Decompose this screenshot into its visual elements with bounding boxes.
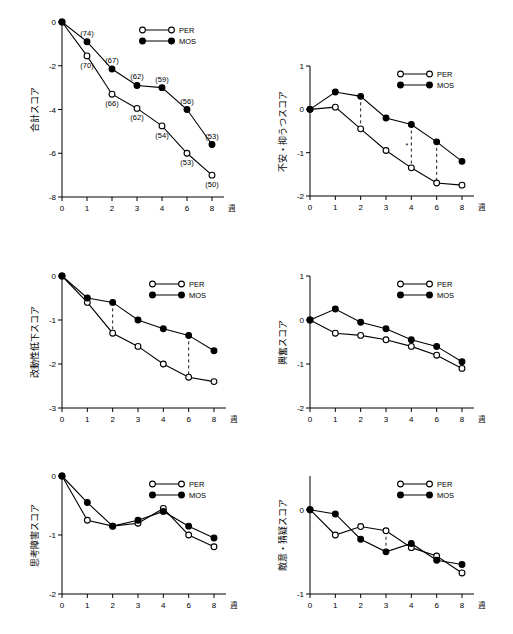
chart-panel-retardation: 0-1-2-30123468週改動性低下スコアPERMOS [18,268,250,440]
y-axis-label-retardation: 改動性低下スコア [29,306,40,378]
svg-text:0: 0 [300,506,305,515]
data-point-label: (67) [105,56,119,65]
data-point-label: (74) [80,29,94,38]
data-point-label: (53) [205,132,219,141]
svg-text:0: 0 [52,18,57,27]
data-point-label: (62) [130,72,144,81]
svg-text:-1: -1 [297,590,305,599]
svg-text:-2: -2 [49,62,57,71]
svg-text:0: 0 [300,316,305,325]
svg-text:1: 1 [300,272,305,281]
svg-text:6: 6 [434,203,439,212]
svg-text:PER: PER [189,280,205,289]
svg-text:-4: -4 [49,106,57,115]
svg-text:PER: PER [179,26,195,35]
svg-text:-2: -2 [49,360,57,369]
y-axis-ticks-anxiety: 10-1-2 [297,62,310,201]
svg-text:1: 1 [333,203,338,212]
svg-text:-1: -1 [297,149,305,158]
svg-text:6: 6 [185,204,190,213]
svg-text:2: 2 [358,601,363,610]
svg-text:0: 0 [52,272,57,281]
data-point-label: (56) [180,97,194,106]
svg-text:8: 8 [212,415,217,424]
svg-text:-2: -2 [49,590,57,599]
data-point-label: (66) [105,99,119,108]
x-axis-ticks-anxiety: 0123468 [308,196,465,212]
legend-anxiety: PERMOS [398,70,454,90]
y-axis-ticks-diurnal: 0-1 [297,506,310,599]
svg-text:1: 1 [85,204,90,213]
svg-text:6: 6 [434,601,439,610]
chart-panel-total: 0-2-4-6-80123468週合計スコア(74)(70)(67)(66)(6… [18,8,250,223]
svg-text:0: 0 [308,203,313,212]
data-point-label: (53) [180,158,194,167]
svg-text:1: 1 [333,601,338,610]
y-axis-ticks-insomnia: 10-1-2 [297,272,310,413]
x-axis-ticks-total: 0123468 [60,197,215,213]
series-per-retardation [59,273,217,384]
y-axis-label-insomnia: 興奮スコア [277,320,288,365]
svg-text:4: 4 [160,204,165,213]
axes-total [62,22,224,197]
x-axis-ticks-diurnal: 0123468 [308,594,465,610]
svg-text:-3: -3 [49,404,57,413]
svg-text:2: 2 [110,204,115,213]
x-axis-ticks-cognitive: 0123468 [60,594,217,610]
svg-text:4: 4 [161,601,166,610]
svg-text:0: 0 [60,204,65,213]
data-point-label: (50) [205,180,219,189]
svg-text:0: 0 [308,601,313,610]
y-axis-ticks-cognitive: 0-1-2 [49,472,62,599]
x-axis-unit-diurnal: 週 [478,601,486,610]
y-axis-label-cognitive: 思考障害スコア [29,504,40,567]
svg-text:MOS: MOS [189,291,206,300]
legend-retardation: PERMOS [150,280,206,300]
svg-text:0: 0 [60,415,65,424]
svg-text:4: 4 [409,203,414,212]
series-per-diurnal [307,507,465,576]
svg-text:8: 8 [460,415,465,424]
svg-text:4: 4 [409,415,414,424]
legend-cognitive: PERMOS [150,480,206,500]
x-axis-ticks-insomnia: 0123468 [308,408,465,424]
svg-text:PER: PER [437,480,453,489]
svg-text:PER: PER [189,480,205,489]
svg-text:-2: -2 [297,404,305,413]
svg-text:3: 3 [384,415,389,424]
svg-text:0: 0 [308,415,313,424]
svg-text:2: 2 [110,601,115,610]
svg-text:-8: -8 [49,193,57,202]
series-mos-insomnia [307,306,465,365]
svg-text:0: 0 [300,105,305,114]
x-axis-unit-cognitive: 週 [230,601,238,610]
legend-total: PERMOS [140,26,196,46]
data-point-label: (59) [155,75,169,84]
svg-text:1: 1 [333,415,338,424]
figure-sheet: 0-2-4-6-80123468週合計スコア(74)(70)(67)(66)(6… [0,0,513,634]
svg-text:2: 2 [110,415,115,424]
chart-panel-cognitive: 0-1-20123468週思考障害スコアPERMOS [18,468,250,628]
x-axis-unit-insomnia: 週 [478,415,486,424]
chart-panel-anxiety: 10-1-20123468週不安・抑うつスコア*PERMOS [262,58,502,228]
y-axis-ticks-total: 0-2-4-6-8 [49,18,62,202]
svg-text:MOS: MOS [179,37,196,46]
svg-text:8: 8 [460,203,465,212]
svg-text:6: 6 [186,415,191,424]
svg-text:-1: -1 [49,531,57,540]
svg-text:PER: PER [437,280,453,289]
chart-panel-diurnal: 0-10123468週敵意・猜疑スコアPERMOS [262,468,502,628]
svg-text:3: 3 [136,601,141,610]
significance-star: * [406,142,409,149]
legend-insomnia: PERMOS [398,280,454,300]
svg-text:2: 2 [358,203,363,212]
legend-diurnal: PERMOS [398,480,454,500]
y-axis-ticks-retardation: 0-1-2-3 [49,272,62,413]
svg-text:-2: -2 [297,192,305,201]
svg-text:MOS: MOS [437,81,454,90]
svg-text:8: 8 [460,601,465,610]
x-axis-unit-retardation: 週 [230,415,238,424]
svg-text:0: 0 [52,472,57,481]
svg-text:2: 2 [358,415,363,424]
x-axis-unit-total: 週 [228,204,236,213]
